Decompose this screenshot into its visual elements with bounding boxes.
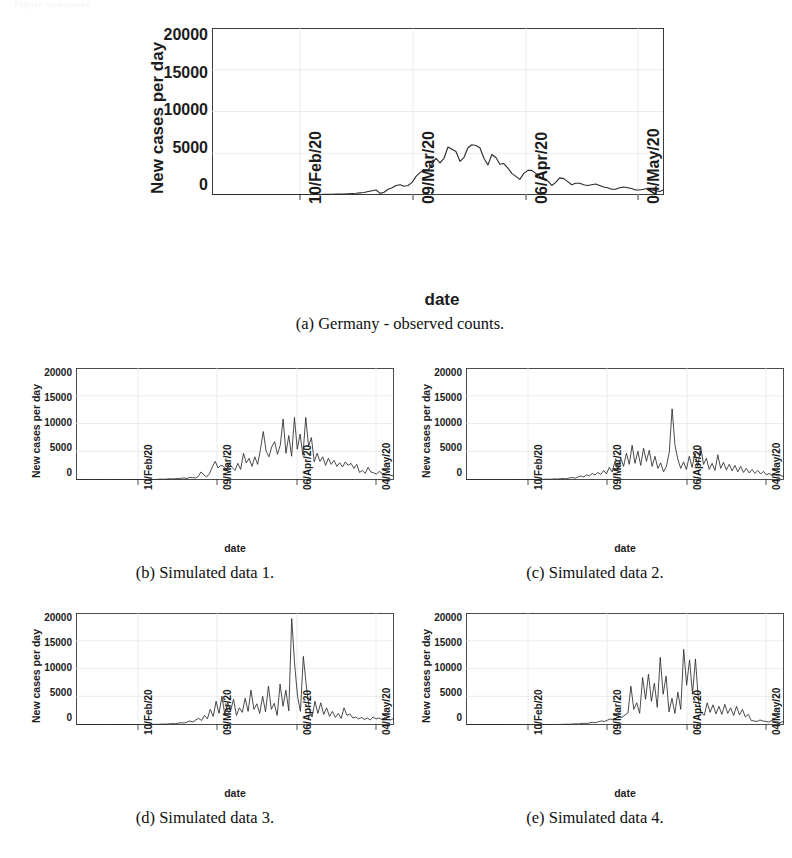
plot-area-e	[466, 613, 784, 731]
panel-caption-e: (e) Simulated data 4.	[410, 808, 780, 828]
panel-caption-c: (c) Simulated data 2.	[410, 563, 780, 583]
y-tick-label-e-10000: 10000	[410, 663, 462, 673]
y-tick-label-a-0: 0	[130, 177, 208, 193]
x-axis-title-d: date	[175, 787, 295, 799]
x-axis-title-c: date	[565, 542, 685, 554]
y-tick-label-d-0: 0	[20, 713, 72, 723]
x-axis-title-e: date	[565, 787, 685, 799]
x-tick-label-a-0: 10/Feb/20	[307, 131, 325, 204]
x-tick-label-d-2: 06/Apr/20	[302, 690, 313, 735]
figure-panel-d: New cases per day 20000 15000 10000 5000…	[20, 605, 390, 830]
x-axis-title-b: date	[175, 542, 295, 554]
y-tick-label-b-10000: 10000	[20, 418, 72, 428]
x-tick-label-e-2: 06/Apr/20	[692, 690, 703, 735]
plot-area-c	[466, 368, 784, 486]
figure-panel-e: New cases per day 20000 15000 10000 5000…	[410, 605, 780, 830]
x-tick-label-c-0: 10/Feb/20	[533, 444, 544, 490]
y-tick-label-d-10000: 10000	[20, 663, 72, 673]
plot-area-b	[76, 368, 394, 486]
figure-panel-c: New cases per day 20000 15000 10000 5000…	[410, 360, 780, 580]
y-tick-label-d-15000: 15000	[20, 638, 72, 648]
y-tick-label-b-20000: 20000	[20, 368, 72, 378]
panel-caption-a: (a) Germany - observed counts.	[120, 314, 680, 334]
plot-a: New cases per day 20000 15000 10000 5000…	[130, 18, 670, 198]
y-tick-label-b-15000: 15000	[20, 393, 72, 403]
panel-caption-b: (b) Simulated data 1.	[20, 563, 390, 583]
y-tick-label-a-20000: 20000	[130, 27, 208, 43]
gridlines-e	[466, 613, 783, 724]
y-tick-label-e-15000: 15000	[410, 638, 462, 648]
gridlines-d	[76, 613, 393, 724]
plot-area-d	[76, 613, 394, 731]
x-tick-label-b-1: 09/Mar/20	[222, 444, 233, 490]
y-tick-label-a-5000: 5000	[130, 140, 208, 156]
x-tick-label-a-1: 09/Mar/20	[420, 131, 438, 204]
plot-b: New cases per day 20000 15000 10000 5000…	[20, 360, 390, 485]
data-series-c	[467, 409, 784, 480]
x-axis-title-a: date	[352, 290, 532, 310]
data-series-b	[77, 417, 394, 479]
plot-d: New cases per day 20000 15000 10000 5000…	[20, 605, 390, 730]
y-tick-label-e-0: 0	[410, 713, 462, 723]
x-tick-label-b-3: 04/May/20	[381, 443, 392, 490]
plot-area-a	[212, 28, 664, 200]
x-tick-label-c-2: 06/Apr/20	[692, 445, 703, 490]
data-series-e	[467, 649, 784, 724]
y-tick-label-b-0: 0	[20, 468, 72, 478]
plot-c: New cases per day 20000 15000 10000 5000…	[410, 360, 780, 485]
y-tick-label-c-0: 0	[410, 468, 462, 478]
plot-e: New cases per day 20000 15000 10000 5000…	[410, 605, 780, 730]
y-tick-label-a-15000: 15000	[130, 65, 208, 81]
y-tick-label-c-15000: 15000	[410, 393, 462, 403]
x-tick-label-b-0: 10/Feb/20	[143, 444, 154, 490]
x-tick-label-e-0: 10/Feb/20	[533, 689, 544, 735]
figure-panel-b: New cases per day 20000 15000 10000 5000…	[20, 360, 390, 580]
x-tick-label-d-3: 04/May/20	[381, 688, 392, 735]
y-tick-label-d-20000: 20000	[20, 613, 72, 623]
x-tick-label-b-2: 06/Apr/20	[302, 445, 313, 490]
data-series-d	[77, 619, 394, 725]
y-tick-label-c-10000: 10000	[410, 418, 462, 428]
panel-caption-d: (d) Simulated data 3.	[20, 808, 390, 828]
x-tick-label-a-3: 04/May/20	[645, 128, 663, 204]
y-tick-label-c-20000: 20000	[410, 368, 462, 378]
x-tick-label-c-1: 09/Mar/20	[612, 444, 623, 490]
x-tick-label-e-1: 09/Mar/20	[612, 689, 623, 735]
x-tickmarks-a	[300, 195, 638, 200]
y-tick-label-e-20000: 20000	[410, 613, 462, 623]
x-tick-label-c-3: 04/May/20	[771, 443, 782, 490]
x-tick-label-d-1: 09/Mar/20	[222, 689, 233, 735]
y-tick-label-e-5000: 5000	[410, 688, 462, 698]
x-tick-label-e-3: 04/May/20	[771, 688, 782, 735]
x-tick-label-a-2: 06/Apr/20	[533, 132, 551, 204]
figure-panel-a: New cases per day 20000 15000 10000 5000…	[130, 18, 670, 343]
page-top-artifact-text: Figure continued	[14, 0, 91, 9]
y-tick-label-d-5000: 5000	[20, 688, 72, 698]
y-tick-label-b-5000: 5000	[20, 443, 72, 453]
y-tick-label-c-5000: 5000	[410, 443, 462, 453]
y-tick-label-a-10000: 10000	[130, 102, 208, 118]
x-tick-label-d-0: 10/Feb/20	[143, 689, 154, 735]
data-series-a	[213, 145, 664, 195]
